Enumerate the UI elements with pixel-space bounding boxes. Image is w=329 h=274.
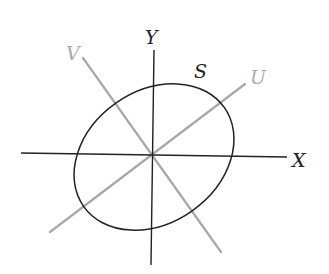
ellipse-label: S [194,60,207,82]
u-axis-line [50,84,245,232]
y-axis-label: Y [145,26,160,48]
u-axis-label: U [250,66,267,88]
x-axis-label: X [290,149,307,171]
coordinate-diagram: Y V S U X [0,0,329,274]
v-axis-label: V [66,42,82,64]
